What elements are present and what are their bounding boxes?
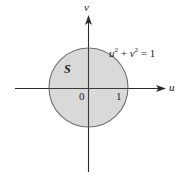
- boundary-equation-label: u2 + v2 = 1: [109, 48, 155, 59]
- origin-label: 0: [79, 91, 85, 102]
- figure-canvas: [0, 0, 189, 176]
- equation-rhs: 1: [150, 47, 156, 59]
- equation-plus: +: [118, 47, 130, 59]
- u-axis-label: u: [169, 82, 175, 93]
- u-axis-tick-label-1: 1: [116, 91, 122, 102]
- region-label-s: S: [64, 63, 71, 75]
- uv-plane-figure: v u S 0 1 u2 + v2 = 1: [0, 0, 189, 176]
- v-axis-label: v: [84, 2, 89, 13]
- equation-equals: =: [138, 47, 150, 59]
